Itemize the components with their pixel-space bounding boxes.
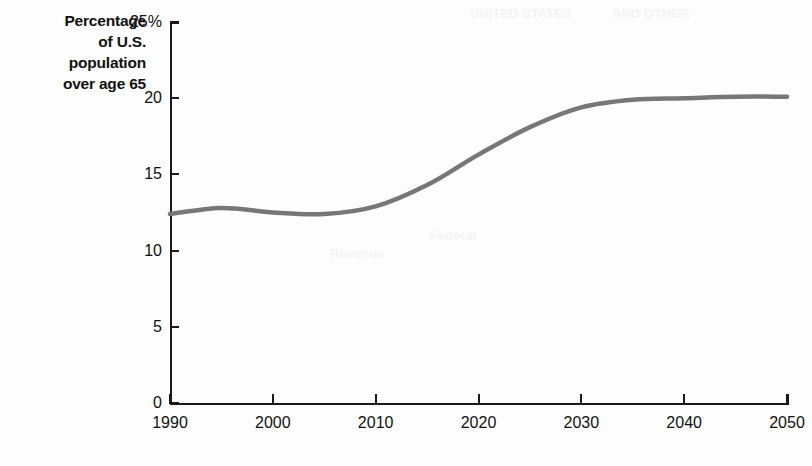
series-path-over-65 <box>170 97 787 215</box>
x-tick-label-2010: 2010 <box>358 414 394 432</box>
x-tick-label-2030: 2030 <box>564 414 600 432</box>
data-series-line <box>170 22 788 405</box>
y-tick-label-25: 25% <box>130 13 162 31</box>
x-tick-label-2000: 2000 <box>255 414 291 432</box>
y-axis-title-line-4: over age 65 <box>0 73 146 94</box>
y-axis-title-line-3: population <box>0 52 146 73</box>
y-tick-label-10: 10 <box>144 242 162 260</box>
y-axis-title: Percentage of U.S. population over age 6… <box>0 10 146 94</box>
y-axis-title-line-2: of U.S. <box>0 31 146 52</box>
x-tick-label-1990: 1990 <box>152 414 188 432</box>
plot-area: 0510152025% 1990200020102020203020402050 <box>170 22 788 404</box>
y-axis-title-line-1: Percentage <box>0 10 146 31</box>
y-tick-label-5: 5 <box>153 318 162 336</box>
ghost-text-0: UNITED STATES <box>470 6 571 21</box>
x-tick-label-2040: 2040 <box>666 414 702 432</box>
x-tick-label-2020: 2020 <box>461 414 497 432</box>
y-tick-label-0: 0 <box>153 394 162 412</box>
chart-figure: Percentage of U.S. population over age 6… <box>0 0 812 466</box>
y-tick-label-15: 15 <box>144 165 162 183</box>
ghost-text-1: AND OTHER <box>612 6 689 21</box>
y-tick-label-20: 20 <box>144 89 162 107</box>
x-tick-label-2050: 2050 <box>769 414 805 432</box>
